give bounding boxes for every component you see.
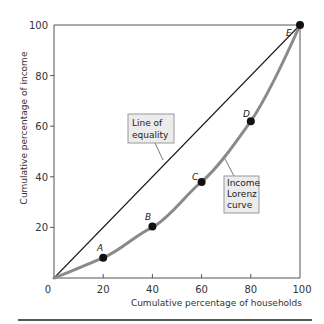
x-axis-title: Cumulative percentage of households: [131, 298, 302, 308]
y-axis-title: Cumulative percentage of income: [19, 51, 29, 204]
x-ticks: 0 20 40 60 80 100: [45, 274, 312, 295]
annotation-lorenz-curve: Income Lorenz curve: [224, 159, 261, 213]
point-a: [99, 254, 107, 262]
lorenz-chart: 100 80 60 40 20 0 20 40 60 80 100 Cumula…: [0, 0, 324, 324]
x-tick-label: 80: [244, 284, 257, 295]
y-tick-label: 100: [29, 20, 48, 31]
y-tick-label: 20: [35, 222, 48, 233]
point-b-label: B: [145, 212, 151, 222]
point-e: [296, 21, 304, 29]
annotation-text: Income: [227, 178, 261, 188]
annotation-text: curve: [227, 200, 253, 210]
point-d-label: D: [243, 109, 250, 119]
y-tick-label: 60: [35, 121, 48, 132]
y-ticks: 100 80 60 40 20: [29, 20, 54, 233]
x-tick-label: 40: [146, 284, 159, 295]
point-c-label: C: [192, 172, 199, 182]
data-points: A B C D E: [96, 21, 304, 262]
line-of-equality: [54, 25, 300, 278]
x-tick-label: 20: [97, 284, 110, 295]
x-tick-label: 60: [195, 284, 208, 295]
point-a-label: A: [96, 243, 103, 253]
annotation-text: Line of: [132, 118, 163, 128]
point-e-label: E: [286, 28, 292, 38]
y-tick-label: 80: [35, 71, 48, 82]
y-tick-label: 40: [35, 172, 48, 183]
point-c: [198, 178, 206, 186]
annotation-line-of-equality: Line of equality: [128, 114, 174, 160]
annotation-text: Lorenz: [227, 189, 257, 199]
annotation-text: equality: [132, 130, 169, 140]
x-tick-label: 100: [292, 284, 311, 295]
point-b: [148, 223, 156, 231]
x-tick-label: 0: [45, 284, 51, 295]
